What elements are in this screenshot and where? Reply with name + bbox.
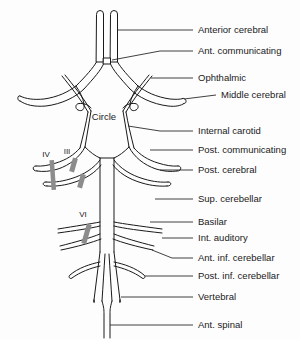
- label-post-inf-cerebellar: Post. inf. cerebellar: [198, 270, 279, 281]
- carotid-bifurcation: [76, 62, 138, 89]
- label-int-auditory: Int. auditory: [198, 232, 248, 243]
- diagram-canvas: IV III VI Circle: [0, 0, 300, 340]
- label-post-communicating: Post. communicating: [198, 144, 286, 155]
- label-ant-spinal: Ant. spinal: [198, 319, 242, 330]
- anterior-cerebral-vessel: [97, 11, 118, 63]
- label-sup-cerebellar: Sup. cerebellar: [198, 193, 262, 204]
- cranial-nerve-markers: IV III VI: [42, 147, 91, 244]
- label-ophthalmic: Ophthalmic: [198, 72, 246, 83]
- vertebral-vessel: [93, 252, 120, 303]
- label-ant-communicating: Ant. communicating: [198, 45, 281, 56]
- label-post-cerebral: Post. cerebral: [198, 164, 257, 175]
- middle-cerebral-right-vessel: [123, 86, 186, 111]
- nerve-vi-label: VI: [79, 210, 87, 219]
- post-inf-cerebellar-vessel: [69, 262, 145, 279]
- ant-communicating-vessel: [104, 58, 111, 64]
- nerve-iii-bar-upper: [69, 158, 78, 173]
- basilar-vessel: [100, 158, 114, 252]
- label-internal-carotid: Internal carotid: [198, 125, 261, 136]
- label-basilar: Basilar: [198, 216, 227, 227]
- nerve-iv-bar: [49, 160, 56, 190]
- nerve-vi-bar: [81, 224, 91, 245]
- label-middle-cerebral: Middle cerebral: [221, 89, 286, 100]
- label-list: Anterior cerebral Ant. communicating Oph…: [198, 24, 286, 330]
- vessel-artwork: [18, 11, 186, 339]
- circle-of-willis-diagram: IV III VI Circle: [0, 0, 300, 340]
- label-vertebral: Vertebral: [198, 291, 236, 302]
- middle-cerebral-left-vessel: [18, 86, 91, 111]
- label-anterior-cerebral: Anterior cerebral: [198, 24, 268, 35]
- label-ant-inf-cerebellar: Ant. inf. cerebellar: [198, 252, 275, 263]
- int-auditory-vessel: [58, 222, 162, 233]
- circle-caption: Circle: [92, 111, 116, 122]
- nerve-iv-label: IV: [42, 150, 50, 159]
- leader-internal-carotid-seg1: [128, 126, 160, 131]
- nerve-iii-label: III: [64, 147, 71, 156]
- leader-middle-cerebral: [184, 95, 216, 99]
- leader-ant-inf-cerebellar-seg1: [152, 250, 172, 258]
- post-cerebral-right-vessel: [129, 147, 181, 171]
- ant-inf-cerebellar-vessel: [60, 234, 154, 250]
- ant-spinal-vessel: [102, 301, 112, 338]
- sup-cerebellar-vessel: [43, 160, 171, 186]
- basilar-top-junction: [85, 147, 129, 158]
- leader-ant-communicating-seg1: [112, 51, 160, 60]
